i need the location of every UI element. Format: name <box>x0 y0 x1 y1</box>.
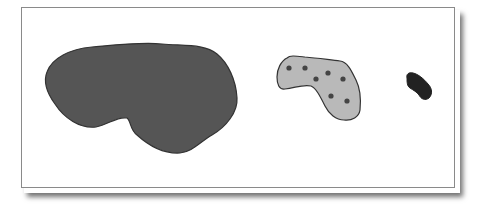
point-dot <box>325 70 330 75</box>
point-dot <box>313 76 318 81</box>
diagram-canvas <box>0 0 483 204</box>
large-blob-region <box>45 43 237 153</box>
small-blob-region <box>407 73 432 100</box>
point-dot <box>286 65 291 70</box>
point-dot <box>302 65 307 70</box>
point-dot <box>340 76 345 81</box>
shapes-layer <box>0 0 483 204</box>
point-dot <box>328 93 333 98</box>
point-dot <box>344 98 349 103</box>
